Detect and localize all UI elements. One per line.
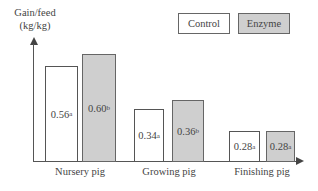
bar-superscript: b [195, 127, 199, 135]
bar-superscript: b [106, 104, 110, 112]
category-label-growing: Growing pig [119, 166, 219, 177]
bar-growing-enzyme: 0.36b [172, 100, 204, 162]
legend-control: Control [178, 13, 230, 34]
category-label-finishing: Finishing pig [212, 166, 312, 177]
legend-control-label: Control [188, 18, 220, 29]
legend-enzyme-label: Enzyme [247, 18, 281, 29]
bar-superscript: a [252, 143, 255, 151]
bar-value: 0.56 [51, 109, 69, 120]
bar-finishing-control: 0.28a [229, 131, 260, 162]
bar-nursery-enzyme: 0.60b [82, 54, 116, 162]
bar-superscript: a [288, 143, 291, 151]
bar-growing-control: 0.34a [134, 109, 164, 162]
bar-value: 0.28 [270, 141, 288, 152]
category-label-nursery: Nursery pig [30, 166, 130, 177]
bar-superscript: a [157, 132, 160, 140]
x-axis-arrow-icon [296, 157, 304, 165]
bar-value: 0.34 [138, 130, 156, 141]
bar-finishing-enzyme: 0.28a [266, 131, 295, 162]
bar-superscript: a [69, 110, 72, 118]
y-axis-label-line1: Gain/feed [2, 6, 68, 19]
y-axis-label: Gain/feed (kg/kg) [2, 6, 68, 32]
y-axis-label-line2: (kg/kg) [2, 19, 68, 32]
bar-value: 0.36 [177, 126, 195, 137]
y-axis [33, 44, 34, 162]
y-axis-arrow-icon [30, 37, 38, 45]
bar-nursery-control: 0.56a [45, 66, 78, 162]
legend-enzyme: Enzyme [238, 13, 290, 34]
bar-value: 0.28 [234, 141, 252, 152]
bar-value: 0.60 [88, 103, 106, 114]
